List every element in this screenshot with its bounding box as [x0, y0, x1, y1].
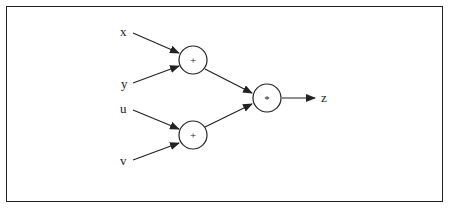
node-mul-op: *: [264, 93, 270, 105]
node-add1: +: [179, 46, 207, 74]
computation-graph: + + * x y u v z: [0, 0, 450, 212]
output-label-z: z: [321, 90, 327, 105]
edge-x-add1: [133, 33, 179, 53]
node-mul: *: [253, 84, 281, 112]
input-label-y: y: [121, 76, 128, 91]
input-label-x: x: [120, 24, 127, 39]
input-label-v: v: [120, 153, 127, 168]
edge-add1-mul: [205, 69, 252, 93]
edge-y-add1: [133, 66, 179, 83]
edge-v-add2: [133, 143, 179, 160]
node-add2: +: [179, 121, 207, 149]
node-add2-op: +: [190, 129, 196, 141]
edge-add2-mul: [205, 104, 252, 127]
edge-u-add2: [133, 110, 179, 129]
node-add1-op: +: [190, 54, 196, 66]
input-label-u: u: [120, 101, 127, 116]
